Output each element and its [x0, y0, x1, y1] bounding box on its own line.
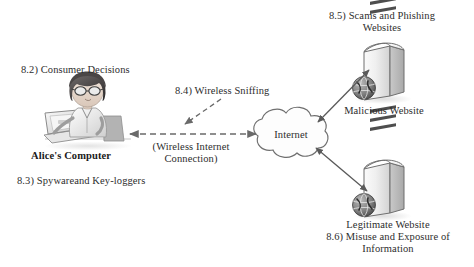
legitimate-tower-side	[390, 163, 404, 213]
label-alices-computer: Alice's Computer	[31, 150, 111, 162]
threat-model-diagram: 8.2) Consumer Decisions Alice's Computer…	[0, 0, 474, 267]
legitimate-globe-icon	[353, 194, 376, 217]
label-legitimate-website: Legitimate Website	[346, 219, 429, 230]
label-internet-cloud: Internet	[262, 129, 320, 141]
legitimate-server-node	[353, 105, 413, 221]
label-wireless-connection: (Wireless Internet Connection)	[131, 141, 251, 165]
alice-computer-node	[44, 72, 132, 151]
legitimate-bay-3	[370, 123, 396, 131]
label-misuse-exposure: 8.6) Misuse and Exposure of Information	[326, 231, 450, 254]
label-legitimate-website-block: Legitimate Website 8.6) Misuse and Expos…	[315, 219, 461, 254]
label-malicious-website: Malicious Website	[336, 105, 432, 117]
malicious-bay-2	[370, 0, 396, 5]
label-scams-and-phishing: 8.5) Scams and Phishing Websites	[317, 10, 447, 34]
internet-to-legitimate-link	[316, 148, 367, 191]
label-consumer-decisions: 8.2) Consumer Decisions	[21, 64, 130, 76]
malicious-tower-side	[390, 46, 404, 96]
label-spyware-keyloggers: 8.3) Spywareand Key-loggers	[17, 175, 145, 187]
malicious-globe-icon	[353, 77, 376, 100]
sniffing-attack-arrow	[185, 99, 221, 124]
label-wireless-sniffing: 8.4) Wireless Sniffing	[175, 85, 269, 97]
